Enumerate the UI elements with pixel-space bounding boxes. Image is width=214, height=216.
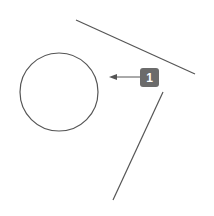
diagram-canvas <box>0 0 214 216</box>
callout-label-text: 1 <box>146 71 153 85</box>
line-diagonal <box>113 92 163 200</box>
callout-label: 1 <box>140 68 159 87</box>
callout-arrow-head-icon <box>109 74 117 80</box>
circle-shape <box>20 53 98 131</box>
line-top <box>76 20 195 74</box>
